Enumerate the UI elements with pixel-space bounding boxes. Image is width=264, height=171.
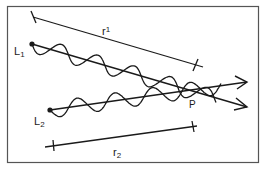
path-length-r1: [31, 11, 203, 71]
ray-from-l2: [50, 76, 247, 110]
r1-line: [33, 17, 203, 67]
source-l2-dot: [47, 107, 52, 112]
r1-label: r1: [102, 25, 111, 37]
r2-start-tick: [53, 140, 54, 151]
source-l2-label: L2: [34, 115, 45, 129]
interference-diagram: r1 r2 L1 L2 P: [0, 0, 264, 171]
source-l1-label: L1: [14, 45, 25, 59]
r2-label: r2: [113, 146, 122, 160]
path-length-r2: [45, 121, 197, 151]
source-l1-dot: [29, 41, 34, 46]
r2-line: [45, 126, 197, 147]
point-p-label: P: [189, 99, 196, 110]
